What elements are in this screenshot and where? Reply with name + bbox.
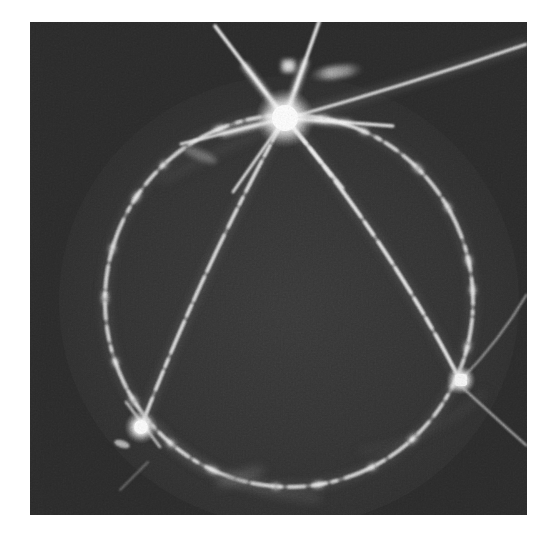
plate-canvas xyxy=(30,22,527,515)
film-grain-overlay-dark xyxy=(30,22,527,515)
page-root: Long-exposure dark-field photograph show… xyxy=(0,0,555,542)
photographic-plate xyxy=(30,22,527,515)
